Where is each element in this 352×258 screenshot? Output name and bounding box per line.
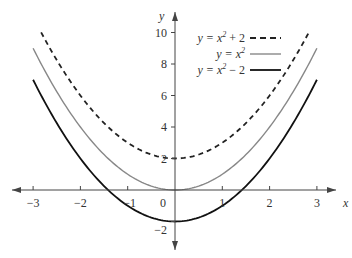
y-tick-label: −2	[154, 223, 167, 237]
y-tick-label: 8	[161, 57, 167, 71]
x-tick-label: 1	[219, 196, 225, 210]
legend-label-1: y = x2	[215, 46, 245, 61]
y-tick-label: 6	[161, 89, 167, 103]
x-axis-arrow-left-icon	[12, 187, 21, 193]
y-tick-label: 4	[161, 120, 167, 134]
x-tick-label: −2	[74, 196, 87, 210]
legend-label-0: y = x2 + 2	[196, 30, 245, 45]
parabola-chart: −3−2−10123−2246810xy y = x2 + 2y = x2y =…	[0, 0, 352, 258]
y-tick-label: 2	[161, 152, 167, 166]
y-tick-label: 10	[155, 26, 167, 40]
axes: −3−2−10123−2246810xy	[12, 9, 349, 250]
y-axis-arrow-up-icon	[172, 12, 178, 21]
x-tick-label: 0	[160, 196, 166, 210]
y-axis-label: y	[158, 9, 165, 23]
x-tick-label: 3	[314, 196, 320, 210]
x-tick-label: −3	[27, 196, 40, 210]
x-tick-label: −1	[123, 196, 136, 210]
x-axis-label: x	[342, 196, 349, 210]
legend: y = x2 + 2y = x2y = x2 − 2	[196, 30, 281, 77]
x-axis-arrow-right-icon	[327, 187, 336, 193]
legend-label-2: y = x2 − 2	[196, 62, 245, 77]
y-axis-arrow-down-icon	[172, 241, 178, 250]
x-tick-label: 2	[267, 196, 273, 210]
